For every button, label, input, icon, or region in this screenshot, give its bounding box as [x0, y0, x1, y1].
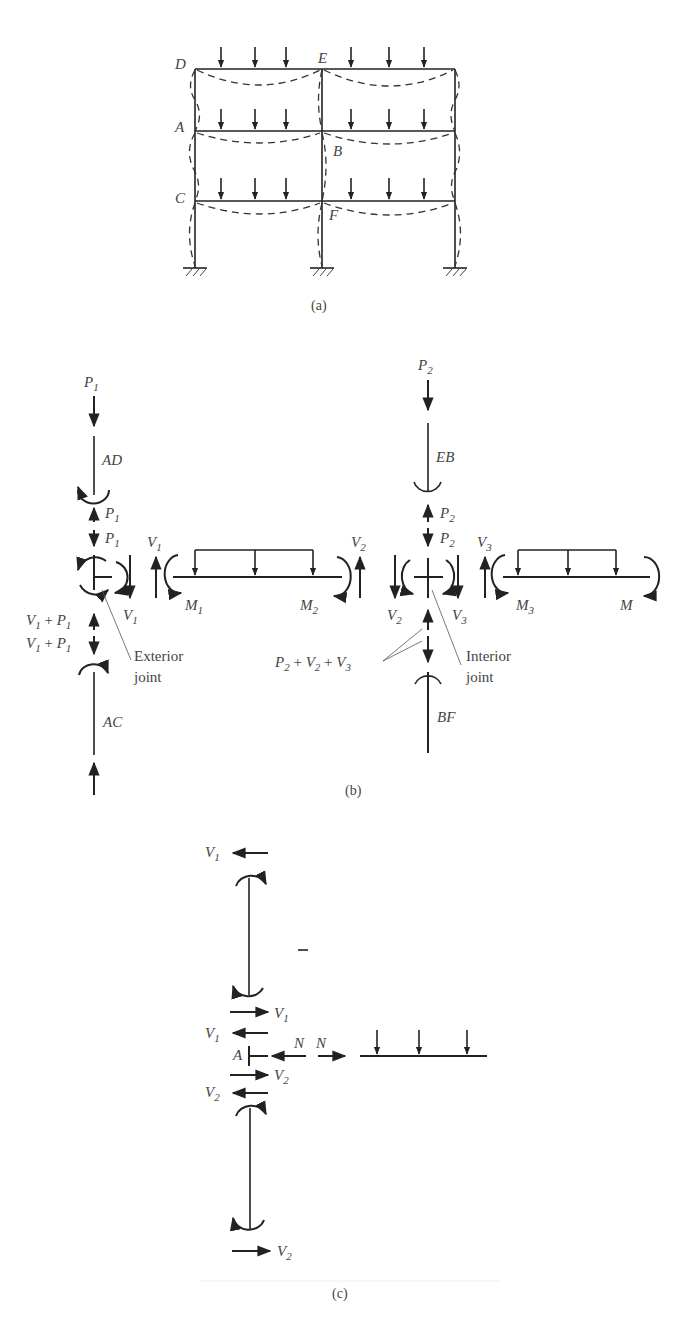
panel-b-exterior-joint: P1 AD P1 P1 V1 V1 + P1 V1 + P1 Exterior …: [26, 374, 183, 795]
panel-c-free-body: V1 V1 V1 A N N V2 V2 V2: [205, 844, 487, 1262]
joint-label-a-c: A: [232, 1047, 243, 1063]
frame-analysis-figure: D E A B C F (a) P1 AD P1 P1 V1 V1 + P1: [0, 0, 692, 1327]
label-p2-up: P2: [439, 505, 455, 524]
label-v2-bottom: V2: [277, 1243, 292, 1262]
label-p1-up: P1: [104, 505, 120, 524]
label-m1: M1: [184, 597, 203, 616]
label-p2-v2-v3-sum: P2 + V2 + V3: [274, 654, 351, 673]
member-label-ad: AD: [101, 452, 122, 468]
label-joint-ext: joint: [133, 669, 162, 685]
label-joint-int: joint: [465, 669, 494, 685]
label-m: M: [619, 597, 634, 613]
label-n-left: N: [293, 1035, 305, 1051]
label-p2-top: P2: [417, 357, 433, 376]
label-v1-top: V1: [205, 844, 220, 863]
label-v1-mid-right: V1: [274, 1005, 289, 1024]
label-v1-right: V1: [123, 607, 138, 626]
label-m2: M2: [299, 597, 319, 616]
fixed-support-icon: [183, 268, 467, 276]
label-v1-plus-p1-up: V1 + P1: [26, 612, 71, 631]
label-p1-down: P1: [104, 530, 120, 549]
caption-a: (a): [311, 298, 327, 314]
label-v2-int: V2: [387, 607, 402, 626]
label-p1-top: P1: [83, 374, 99, 393]
joint-label-b: B: [333, 143, 342, 159]
label-interior: Interior: [466, 648, 511, 664]
joint-label-a: A: [174, 119, 185, 135]
joint-label-f: F: [328, 207, 339, 223]
member-label-bf: BF: [437, 709, 456, 725]
member-label-ac: AC: [102, 714, 123, 730]
panel-b-interior-joint: P2 EB P2 P2 V2 V3 P2 + V2 + V3 Interior …: [274, 357, 511, 753]
joint-label-c: C: [175, 190, 186, 206]
joint-label-d: D: [174, 56, 186, 72]
exterior-joint-node: [78, 555, 130, 598]
member-label-eb: EB: [435, 449, 454, 465]
panel-a-frame: D E A B C F (a): [174, 47, 467, 314]
label-v3-beam: V3: [477, 534, 492, 553]
label-m3: M3: [515, 597, 535, 616]
label-v3-int: V3: [452, 607, 467, 626]
label-p2-down: P2: [439, 530, 455, 549]
label-n-right: N: [315, 1035, 327, 1051]
label-v2-mid-left: V2: [205, 1084, 220, 1103]
label-v1-mid-left: V1: [205, 1025, 220, 1044]
interior-joint-node: [395, 555, 458, 598]
panel-b-beam-right: V3 M3 M: [477, 534, 659, 616]
label-v1-beam: V1: [147, 534, 162, 553]
panel-b-beam-left: V1 M1 M2 V2: [147, 534, 366, 616]
caption-c: (c): [332, 1286, 348, 1302]
label-v2-beam: V2: [351, 534, 366, 553]
caption-b: (b): [345, 783, 362, 799]
joint-label-e: E: [317, 50, 327, 66]
label-v1-plus-p1-down: V1 + P1: [26, 635, 71, 654]
deflected-shape: [189, 70, 460, 266]
label-exterior: Exterior: [134, 648, 183, 664]
label-v2-mid-right: V2: [274, 1067, 289, 1086]
